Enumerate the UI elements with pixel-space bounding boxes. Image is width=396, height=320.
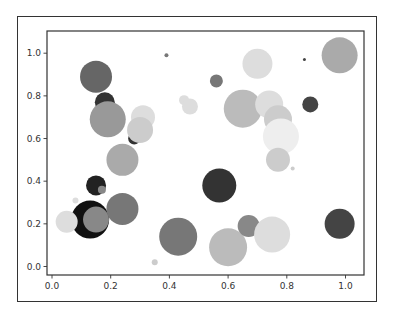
y-tick-label: 0.4 xyxy=(27,176,42,186)
data-point xyxy=(72,197,78,203)
y-tick-label: 1.0 xyxy=(27,48,42,58)
data-point xyxy=(127,117,153,143)
y-axis: 0.00.20.40.60.81.0 xyxy=(27,48,47,271)
data-point xyxy=(152,259,158,265)
scatter-chart: 0.00.20.40.60.81.0 0.00.20.40.60.81.0 xyxy=(0,0,396,320)
data-point xyxy=(159,218,197,256)
x-tick-label: 0.4 xyxy=(162,281,177,291)
data-point xyxy=(202,168,236,202)
data-points xyxy=(56,37,358,266)
data-point xyxy=(106,144,138,176)
x-tick-label: 0.0 xyxy=(45,281,60,291)
x-tick-label: 0.6 xyxy=(221,281,236,291)
data-point xyxy=(266,148,290,172)
data-point xyxy=(98,186,106,194)
data-point xyxy=(106,193,138,225)
data-point xyxy=(90,101,126,137)
y-tick-label: 0.0 xyxy=(27,262,42,272)
data-point xyxy=(210,74,223,87)
data-point xyxy=(56,211,78,233)
x-tick-label: 1.0 xyxy=(338,281,353,291)
data-point xyxy=(164,53,168,57)
data-point xyxy=(302,96,318,112)
data-point xyxy=(182,99,198,115)
y-tick-label: 0.8 xyxy=(27,91,42,101)
y-tick-label: 0.6 xyxy=(27,134,42,144)
x-tick-label: 0.2 xyxy=(104,281,118,291)
data-point xyxy=(80,61,112,93)
data-point xyxy=(83,207,109,233)
x-axis: 0.00.20.40.60.81.0 xyxy=(45,275,353,291)
data-point xyxy=(242,49,272,79)
x-tick-label: 0.8 xyxy=(280,281,295,291)
data-point xyxy=(322,37,358,73)
data-point xyxy=(291,166,295,170)
data-point xyxy=(254,217,290,253)
data-point xyxy=(325,209,355,239)
data-point xyxy=(303,58,306,61)
y-tick-label: 0.2 xyxy=(27,219,41,229)
